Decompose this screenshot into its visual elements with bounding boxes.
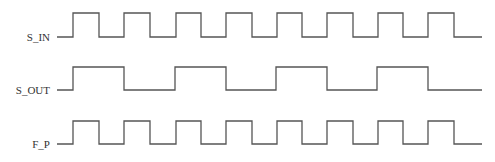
waveforms <box>0 0 495 162</box>
waveform-s-in <box>57 13 482 37</box>
timing-diagram: S_IN S_OUT F_P <box>0 0 495 162</box>
waveform-f-p <box>57 121 482 144</box>
waveform-s-out <box>57 67 482 90</box>
